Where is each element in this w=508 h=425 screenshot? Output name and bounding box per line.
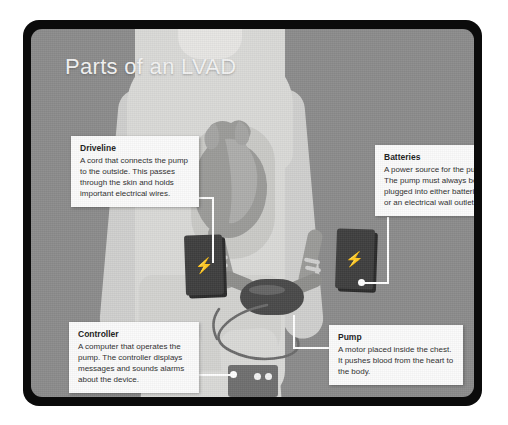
callout-driveline-title: Driveline xyxy=(80,143,190,153)
controller-indicator-light xyxy=(265,373,272,380)
diagram-frame: ⚡ ⚡ Parts of an LVAD Driveline A cord th… xyxy=(23,20,482,406)
callout-controller-title: Controller xyxy=(78,329,190,339)
callout-batteries: Batteries A power source for the pump. T… xyxy=(375,145,474,216)
leader-line-batteries xyxy=(387,217,389,284)
controller-device xyxy=(228,365,278,397)
leader-line-pump xyxy=(293,347,331,349)
battery-pack-right: ⚡ xyxy=(335,228,375,289)
pump-highlight xyxy=(249,285,285,295)
leader-dot-batteries xyxy=(358,279,365,286)
callout-driveline-body: A cord that connects the pump to the out… xyxy=(80,155,190,199)
leader-line-driveline xyxy=(212,197,214,263)
figure-title: Parts of an LVAD xyxy=(65,54,237,80)
leader-line-batteries xyxy=(361,282,389,284)
controller-indicator-light xyxy=(254,373,261,380)
callout-pump: Pump A motor placed inside the chest. It… xyxy=(329,325,463,385)
lightning-bolt-icon: ⚡ xyxy=(345,251,365,267)
leader-line-pump xyxy=(293,315,295,349)
callout-batteries-title: Batteries xyxy=(384,152,474,162)
callout-controller: Controller A computer that operates the … xyxy=(69,322,199,393)
diagram-canvas: ⚡ ⚡ Parts of an LVAD Driveline A cord th… xyxy=(31,29,474,397)
callout-batteries-body: A power source for the pump. The pump mu… xyxy=(384,164,474,208)
callout-driveline: Driveline A cord that connects the pump … xyxy=(71,136,199,207)
callout-controller-body: A computer that operates the pump. The c… xyxy=(78,341,190,385)
callout-pump-title: Pump xyxy=(338,332,454,342)
lightning-bolt-icon: ⚡ xyxy=(194,257,214,273)
leader-dot-controller xyxy=(230,371,237,378)
callout-pump-body: A motor placed inside the chest. It push… xyxy=(338,344,454,377)
battery-pack-left: ⚡ xyxy=(184,234,224,295)
